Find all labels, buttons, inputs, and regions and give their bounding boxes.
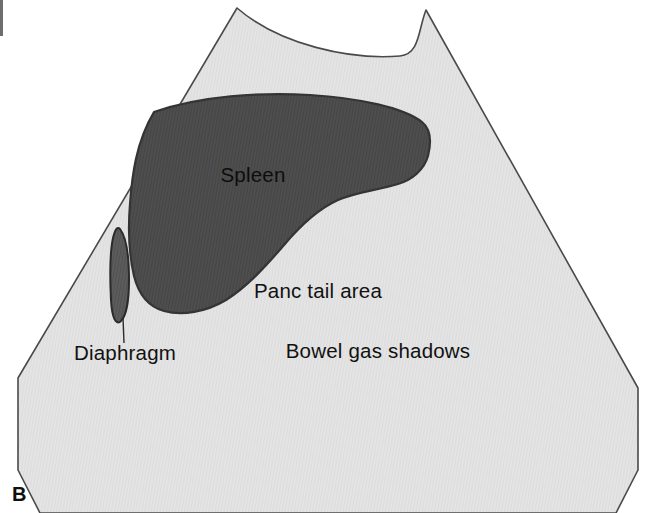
- panel-letter: B: [12, 484, 26, 504]
- ultrasound-diagram: Spleen Panc tail area Bowel gas shadows …: [0, 0, 651, 513]
- annotation-label-panc-tail-area: Panc tail area: [254, 279, 383, 302]
- annotation-label-spleen: Spleen: [220, 163, 285, 186]
- leader-line-group: [123, 318, 124, 343]
- annotation-label-diaphragm: Diaphragm: [74, 341, 176, 364]
- figure-root: Spleen Panc tail area Bowel gas shadows …: [0, 0, 651, 513]
- diaphragm-band: [110, 228, 129, 322]
- diaphragm-leader-line: [123, 318, 124, 343]
- annotation-label-bowel-gas-shadows: Bowel gas shadows: [286, 339, 471, 362]
